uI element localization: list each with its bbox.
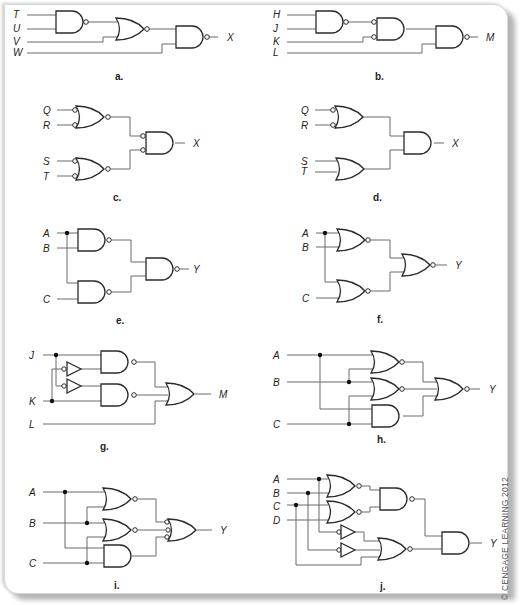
caption-e: e. bbox=[116, 315, 125, 326]
circuit-g: J K L M g. bbox=[28, 350, 228, 452]
input-label-s: S bbox=[43, 156, 50, 167]
input-label-l: L bbox=[273, 47, 279, 58]
input-label-c-e: C bbox=[43, 294, 51, 305]
logic-circuits-figure: T U V W X a. H J K L M b. Q R S T bbox=[0, 0, 521, 605]
output-label-y-i: Y bbox=[220, 525, 228, 536]
circuit-h: A B C Y h. bbox=[272, 350, 497, 445]
caption-h: h. bbox=[377, 434, 386, 445]
circuit-d: Q R S T X d. bbox=[301, 105, 459, 203]
circuit-e: A B C Y e. bbox=[42, 228, 201, 326]
input-label-t: T bbox=[13, 9, 20, 20]
output-label-y-h: Y bbox=[489, 384, 497, 395]
input-label-r-d: R bbox=[301, 120, 308, 131]
input-label-r: R bbox=[43, 120, 50, 131]
input-label-j: J bbox=[272, 23, 279, 34]
output-label-x-c: X bbox=[192, 138, 200, 149]
input-label-b-i: B bbox=[29, 518, 36, 529]
input-label-b-f: B bbox=[302, 242, 309, 253]
output-label-x: X bbox=[226, 32, 234, 43]
input-label-c-i: C bbox=[29, 558, 37, 569]
circuit-i: A B C Y i. bbox=[28, 487, 228, 591]
input-label-c-j: C bbox=[273, 501, 281, 512]
output-label-m-g: M bbox=[219, 389, 228, 400]
caption-d: d. bbox=[373, 192, 382, 203]
circuit-j: A B C D Y j. bbox=[272, 474, 498, 592]
circuit-b: H J K L M b. bbox=[272, 9, 495, 82]
input-label-b-j: B bbox=[273, 488, 280, 499]
input-label-u: U bbox=[13, 23, 21, 34]
input-label-q: Q bbox=[43, 105, 51, 116]
input-label-j-g: J bbox=[28, 350, 35, 361]
input-label-w: W bbox=[13, 47, 24, 58]
input-label-b-e: B bbox=[43, 243, 50, 254]
output-label-m: M bbox=[486, 32, 495, 43]
caption-j: j. bbox=[379, 581, 386, 592]
input-label-d-j: D bbox=[273, 515, 280, 526]
input-label-q-d: Q bbox=[301, 105, 309, 116]
circuit-f: A B C Y f. bbox=[301, 228, 463, 325]
output-label-x-d: X bbox=[451, 138, 459, 149]
circuit-c: Q R S T X c. bbox=[43, 105, 200, 203]
output-label-y-f: Y bbox=[455, 260, 463, 271]
input-label-k-g: K bbox=[29, 396, 37, 407]
caption-a: a. bbox=[115, 71, 124, 82]
copyright-notice: © CENGAGE LEARNING 2012 bbox=[500, 477, 510, 600]
input-label-c-h: C bbox=[273, 419, 281, 430]
input-label-t2: T bbox=[43, 171, 50, 182]
caption-g: g. bbox=[100, 441, 109, 452]
caption-b: b. bbox=[375, 71, 384, 82]
caption-c: c. bbox=[113, 192, 122, 203]
input-label-a-i: A bbox=[28, 487, 36, 498]
output-label-y-e: Y bbox=[193, 264, 201, 275]
input-label-a-h: A bbox=[272, 350, 280, 361]
input-label-a-e: A bbox=[42, 228, 50, 239]
caption-i: i. bbox=[114, 580, 120, 591]
input-label-t-d: T bbox=[301, 166, 308, 177]
input-label-v: V bbox=[13, 36, 21, 47]
input-label-a-f: A bbox=[301, 228, 309, 239]
input-label-l-g: L bbox=[29, 419, 35, 430]
input-label-b-h: B bbox=[273, 377, 280, 388]
circuit-a: T U V W X a. bbox=[13, 9, 234, 82]
input-label-h: H bbox=[273, 9, 281, 20]
input-label-k: K bbox=[273, 36, 281, 47]
output-label-y-j: Y bbox=[490, 538, 498, 549]
input-label-a-j: A bbox=[272, 474, 280, 485]
input-label-c-f: C bbox=[302, 293, 310, 304]
caption-f: f. bbox=[377, 314, 383, 325]
